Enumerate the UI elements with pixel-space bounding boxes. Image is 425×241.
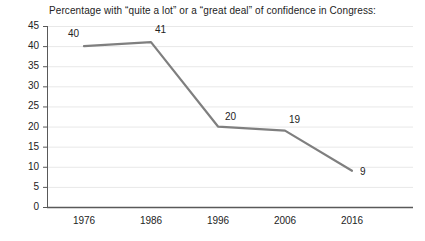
y-tick-label: 40	[13, 40, 39, 51]
y-tick-label: 15	[13, 141, 39, 152]
y-tick-label: 20	[13, 121, 39, 132]
x-tick-label: 1986	[121, 215, 181, 226]
x-tick-label: 2016	[322, 215, 382, 226]
data-point-label: 40	[68, 28, 79, 39]
x-tick-label: 2006	[255, 215, 315, 226]
data-point-label: 9	[360, 166, 366, 177]
y-tick-label: 5	[13, 181, 39, 192]
y-tick-label: 10	[13, 161, 39, 172]
y-tick-label: 30	[13, 80, 39, 91]
data-point-label: 19	[289, 114, 300, 125]
y-tick-label: 35	[13, 60, 39, 71]
x-tick-label: 1996	[188, 215, 248, 226]
chart-plot-area	[0, 0, 425, 241]
data-point-label: 41	[155, 24, 166, 35]
y-tick-label: 0	[13, 201, 39, 212]
x-tick-label: 1976	[54, 215, 114, 226]
y-tick-label: 25	[13, 100, 39, 111]
chart-container: Percentage with “quite a lot” or a “grea…	[0, 0, 425, 241]
y-tick-label: 45	[13, 20, 39, 31]
data-point-label: 20	[225, 111, 236, 122]
y-tick-marks	[43, 27, 47, 208]
